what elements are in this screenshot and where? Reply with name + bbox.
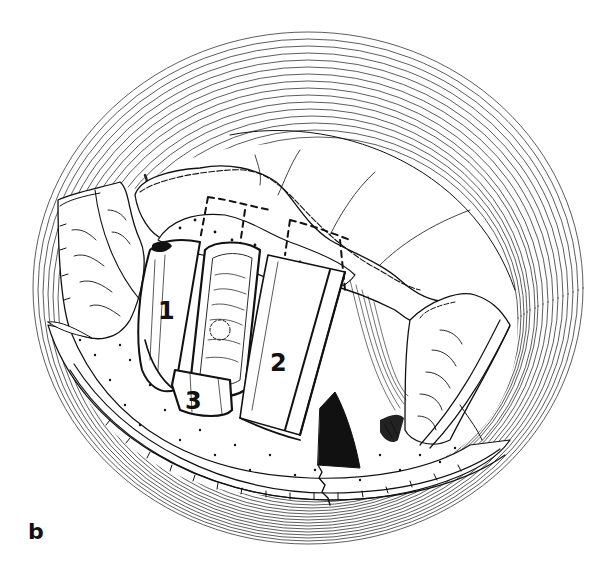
region-label-3: 3 [185, 389, 202, 413]
region-label-2: 2 [270, 351, 287, 375]
surgical-illustration [0, 0, 605, 576]
region-label-1: 1 [158, 299, 175, 323]
panel-label: b [28, 521, 44, 543]
